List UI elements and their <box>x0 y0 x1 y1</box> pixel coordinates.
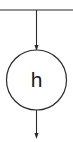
node-label: h <box>31 68 43 91</box>
node-h: h <box>7 50 67 110</box>
diagram-canvas: h <box>0 0 73 142</box>
output-arrowhead-icon <box>35 133 39 139</box>
